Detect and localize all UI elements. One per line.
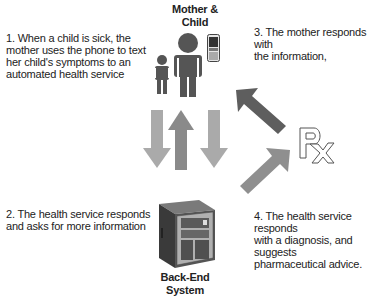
arrow-to-pharmacy-icon[interactable]: [238, 148, 290, 194]
arrow-down-request-icon[interactable]: [143, 110, 171, 170]
step-2-text: 2. The health service responds and asks …: [6, 208, 150, 232]
step-4-text: 4. The health service responds with a di…: [254, 210, 384, 270]
arrow-to-mother-icon[interactable]: [236, 88, 288, 136]
arrow-up-response-icon[interactable]: [168, 110, 194, 170]
mother-person-icon: [172, 32, 204, 98]
step-3-text: 3. The mother responds with the informat…: [254, 26, 384, 62]
mother-child-label: Mother & Child: [155, 3, 235, 29]
server-tower-icon: [155, 198, 217, 268]
mobile-phone-icon: [207, 34, 220, 62]
prescription-icon: [298, 126, 334, 164]
arrow-down-info-icon[interactable]: [200, 110, 228, 170]
backend-label: Back-End System: [145, 271, 225, 297]
child-person-icon: [152, 54, 172, 96]
step-1-text: 1. When a child is sick, the mother uses…: [6, 32, 146, 80]
